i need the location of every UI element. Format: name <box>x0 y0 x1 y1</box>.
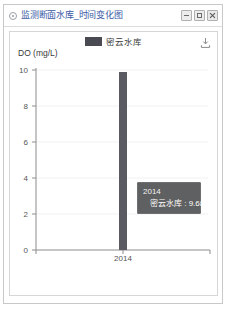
window-titlebar: 监测断面水库_时间变化图 <box>4 5 222 27</box>
y-tick-label: 8 <box>12 102 28 111</box>
y-tick-label: 10 <box>12 66 28 75</box>
chart-panel: 密云水库 DO (mg/L) <box>9 31 218 296</box>
minimize-button[interactable] <box>181 10 192 21</box>
y-tick-label: 0 <box>12 246 28 255</box>
bar-miyun-2014[interactable] <box>119 72 127 250</box>
tooltip-series-row: 密云水库 : 9.68 <box>143 198 195 209</box>
y-tick-label: 2 <box>12 210 28 219</box>
chart-tooltip: 2014 密云水库 : 9.68 <box>137 182 201 214</box>
window-title: 监测断面水库_时间变化图 <box>21 9 123 22</box>
maximize-button[interactable] <box>194 10 205 21</box>
x-tick-label: 2014 <box>108 254 138 263</box>
window-controls <box>181 10 218 21</box>
close-button[interactable] <box>207 10 218 21</box>
info-circle-icon <box>9 12 17 20</box>
y-tick-label: 6 <box>12 138 28 147</box>
chart-window: 监测断面水库_时间变化图 密云水库 DO (m <box>3 4 223 304</box>
y-tick-label: 4 <box>12 174 28 183</box>
tooltip-title: 2014 <box>143 186 195 197</box>
